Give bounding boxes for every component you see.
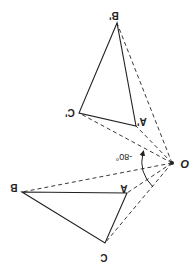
label-A: A <box>120 183 127 194</box>
label-O: O <box>180 158 189 170</box>
ray-O-B <box>22 163 172 192</box>
ray-O-Aprime <box>136 126 172 163</box>
label-A-prime: A' <box>137 116 147 127</box>
angle-label: -80° <box>115 152 132 162</box>
ray-O-C <box>105 163 172 243</box>
label-B-prime: B' <box>109 10 119 21</box>
center-point <box>170 161 174 165</box>
label-C: C <box>100 252 107 263</box>
diagram-canvas: O -80° B' C' A' B A C <box>0 0 191 276</box>
ray-O-Bprime <box>117 23 172 163</box>
label-C-prime: C' <box>65 107 75 118</box>
rotation-diagram: O -80° B' C' A' B A C <box>0 0 191 276</box>
triangle-image <box>79 23 136 126</box>
construction-lines <box>22 23 172 243</box>
rotation-arc-icon <box>142 153 153 187</box>
label-B: B <box>10 182 17 193</box>
